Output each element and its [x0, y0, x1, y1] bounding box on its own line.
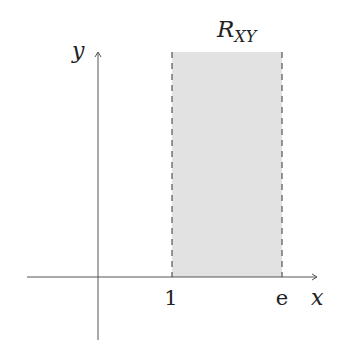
region-rxy	[172, 52, 282, 277]
tick-label-e: e	[276, 286, 288, 310]
y-axis-label: y	[71, 38, 85, 63]
region-label-sub: XY	[232, 27, 257, 46]
region-label: RXY	[216, 16, 258, 46]
region-label-main: R	[216, 16, 234, 42]
x-axis-label: x	[311, 285, 324, 310]
diagram-canvas: y x 1 e RXY	[0, 0, 348, 364]
tick-label-1: 1	[164, 286, 177, 310]
